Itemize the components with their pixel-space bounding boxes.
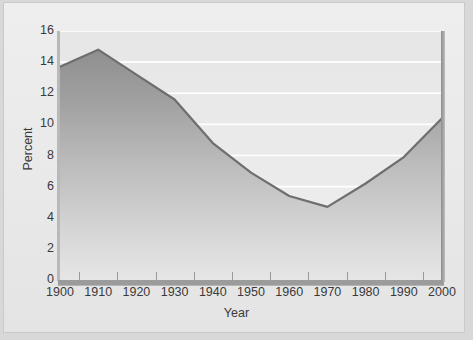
y-axis-title: Percent bbox=[21, 104, 35, 194]
x-axis-tick bbox=[308, 272, 309, 280]
x-axis-tick-label: 2000 bbox=[419, 285, 465, 299]
y-axis-tick-label: 4 bbox=[10, 211, 54, 223]
x-axis-tick bbox=[270, 272, 271, 280]
chart-panel: 0246810121416 bbox=[3, 2, 465, 333]
y-axis-tick-label: 0 bbox=[10, 273, 54, 285]
x-axis-title: Year bbox=[4, 306, 473, 320]
x-axis-tick bbox=[385, 272, 386, 280]
y-axis-tick-label: 16 bbox=[10, 24, 54, 36]
plot-area bbox=[60, 31, 442, 280]
y-axis-tick-label: 12 bbox=[10, 86, 54, 98]
x-axis-tick bbox=[194, 272, 195, 280]
x-axis-tick bbox=[232, 272, 233, 280]
plot-right-border bbox=[441, 31, 445, 282]
chart-figure: 0246810121416 bbox=[0, 0, 473, 340]
chart-canvas bbox=[60, 31, 442, 280]
y-axis-tick-label: 2 bbox=[10, 242, 54, 254]
x-axis-tick bbox=[79, 272, 80, 280]
x-axis-title-text: Year bbox=[224, 306, 249, 320]
x-axis-tick bbox=[156, 272, 157, 280]
y-axis-line bbox=[57, 31, 60, 281]
x-axis-tick bbox=[347, 272, 348, 280]
x-axis-tick bbox=[423, 272, 424, 280]
x-axis-tick bbox=[117, 272, 118, 280]
y-axis-tick-label: 14 bbox=[10, 55, 54, 67]
